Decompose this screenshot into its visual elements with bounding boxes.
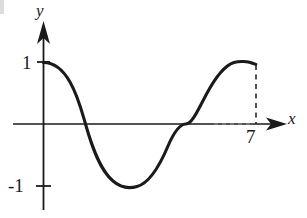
function-graph-figure: [0, 0, 307, 218]
y-axis-label: y: [36, 2, 44, 19]
x-axis-label: x: [288, 110, 296, 127]
y-tick-label-negative-one: -1: [8, 176, 24, 195]
y-tick-label-one: 1: [22, 53, 32, 72]
x-tick-label-seven: 7: [246, 127, 256, 146]
scan-artifact: [0, 0, 4, 14]
